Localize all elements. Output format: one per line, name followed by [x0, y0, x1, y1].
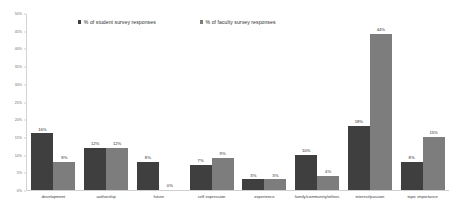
bar[interactable] [370, 34, 392, 190]
y-axis-tick-mark [24, 137, 27, 138]
y-axis-tick-label: 15% [3, 136, 22, 140]
x-axis-category-label: interest/passion [344, 194, 397, 199]
x-axis-category-labels: developmentauthorshipfutureself expressi… [27, 194, 449, 199]
x-axis-line [26, 190, 449, 191]
bar-chart: % of student survey responses % of facul… [0, 0, 457, 216]
bar-item[interactable]: 12% [106, 14, 128, 190]
bar-item[interactable]: 3% [242, 14, 264, 190]
y-axis-tick-mark [24, 49, 27, 50]
bar-item[interactable]: 0% [159, 14, 181, 190]
bar-value-label: 4% [325, 170, 331, 174]
bar-item[interactable]: 3% [264, 14, 286, 190]
x-axis-category-label: self expression [185, 194, 238, 199]
bar-value-label: 10% [302, 149, 310, 153]
y-axis-tick-mark [24, 102, 27, 103]
bar-value-label: 12% [91, 142, 99, 146]
y-axis-tick-label: 45% [3, 30, 22, 34]
y-axis-tick-label: 30% [3, 83, 22, 87]
bar[interactable] [401, 162, 423, 190]
bar[interactable] [53, 162, 75, 190]
bar-group: 10%4% [291, 14, 344, 190]
bar-item[interactable]: 8% [401, 14, 423, 190]
x-axis-category-label: experience [238, 194, 291, 199]
bar-groups: 16%8%12%12%8%0%7%9%3%3%10%4%18%44%8%15% [27, 14, 449, 190]
bar-item[interactable]: 8% [137, 14, 159, 190]
bar-group: 7%9% [185, 14, 238, 190]
bar-item[interactable]: 44% [370, 14, 392, 190]
y-axis-tick-mark [24, 120, 27, 121]
bar-value-label: 3% [250, 174, 256, 178]
bar-group: 12%12% [80, 14, 133, 190]
bar-value-label: 12% [113, 142, 121, 146]
bar-item[interactable]: 7% [190, 14, 212, 190]
bar-value-label: 16% [38, 128, 46, 132]
y-axis-tick-label: 40% [3, 47, 22, 51]
y-axis-tick-mark [24, 84, 27, 85]
bar-value-label: 8% [409, 156, 415, 160]
y-axis-tick-label: 5% [3, 171, 22, 175]
y-axis-tick-mark [24, 31, 27, 32]
bar-value-label: 15% [429, 131, 437, 135]
y-axis-tick-mark [24, 173, 27, 174]
bar-value-label: 18% [355, 120, 363, 124]
bar-group: 16%8% [27, 14, 80, 190]
y-axis-tick-mark [24, 14, 27, 15]
bar[interactable] [106, 148, 128, 190]
bar-group: 18%44% [344, 14, 397, 190]
bar-group: 8%15% [396, 14, 449, 190]
bar-group: 8%0% [133, 14, 186, 190]
x-axis-category-label: future [133, 194, 186, 199]
bar-value-label: 3% [272, 174, 278, 178]
y-axis-tick-label: 50% [3, 12, 22, 16]
bar-value-label: 8% [61, 156, 67, 160]
bar-item[interactable]: 9% [212, 14, 234, 190]
y-axis-tick-label: 20% [3, 118, 22, 122]
bar-item[interactable]: 15% [423, 14, 445, 190]
y-axis-tick-label: 0% [3, 189, 22, 193]
bar[interactable] [31, 133, 53, 190]
bar-item[interactable]: 12% [84, 14, 106, 190]
y-axis-tick-mark [24, 155, 27, 156]
x-axis-category-label: topic importance [396, 194, 449, 199]
x-axis-category-label: development [27, 194, 80, 199]
bar[interactable] [295, 155, 317, 190]
x-axis-category-label: family/community/others [291, 194, 344, 199]
bar-item[interactable]: 4% [317, 14, 339, 190]
y-axis-tick-mark [24, 67, 27, 68]
bar[interactable] [190, 165, 212, 190]
bar[interactable] [84, 148, 106, 190]
bar[interactable] [317, 176, 339, 190]
bar[interactable] [242, 179, 264, 190]
bar[interactable] [423, 137, 445, 190]
y-axis-tick-label: 10% [3, 154, 22, 158]
bar[interactable] [137, 162, 159, 190]
y-axis-tick-mark [24, 191, 27, 192]
bar-value-label: 7% [198, 159, 204, 163]
bar-value-label: 8% [145, 156, 151, 160]
bar-value-label: 44% [377, 28, 385, 32]
bar-value-label: 0% [167, 184, 173, 188]
y-axis-tick-label: 25% [3, 101, 22, 105]
bar-item[interactable]: 8% [53, 14, 75, 190]
plot-area: 50%45%40%35%30%25%20%15%10%5%0% 16%8%12%… [26, 14, 449, 191]
bar-value-label: 9% [220, 152, 226, 156]
bar[interactable] [348, 126, 370, 190]
bar-group: 3%3% [238, 14, 291, 190]
x-axis-category-label: authorship [80, 194, 133, 199]
bar[interactable] [264, 179, 286, 190]
bar-item[interactable]: 16% [31, 14, 53, 190]
bar-item[interactable]: 10% [295, 14, 317, 190]
bar[interactable] [212, 158, 234, 190]
y-axis-tick-label: 35% [3, 65, 22, 69]
bar-item[interactable]: 18% [348, 14, 370, 190]
